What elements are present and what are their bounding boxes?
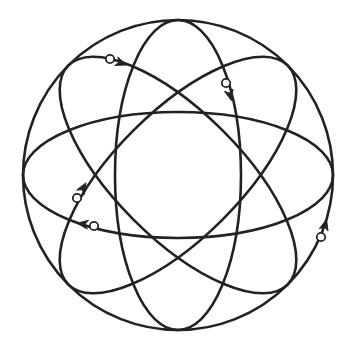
atom-diagram — [0, 0, 355, 342]
atom-diagram-canvas — [0, 0, 355, 342]
electron-icon — [222, 79, 230, 87]
orbits-layer — [23, 20, 333, 330]
outer-orbit — [23, 20, 333, 330]
diagonal-orbit-rising — [24, 21, 332, 329]
arrowhead-icon — [76, 219, 88, 229]
electron-icon — [73, 194, 81, 202]
electron-icon — [90, 222, 98, 230]
electron-4 — [76, 219, 98, 230]
electron-icon — [106, 55, 114, 63]
electrons-layer — [73, 55, 331, 241]
diagonal-orbit-falling — [24, 21, 332, 329]
electron-3 — [73, 181, 90, 203]
electron-icon — [317, 233, 325, 241]
